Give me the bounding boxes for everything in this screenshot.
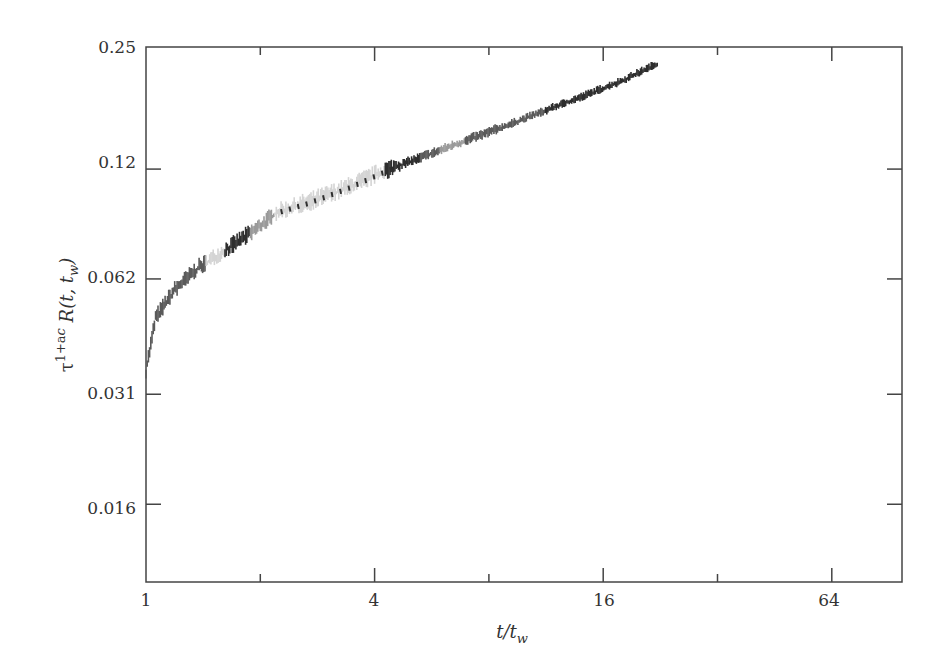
y-tick-labels: 0.25 0.12 0.062 0.031 0.016	[87, 37, 136, 518]
data-trace	[332, 192, 333, 197]
x-tick-labels: 1 4 16 64	[141, 590, 840, 610]
y-tick-label: 0.062	[87, 267, 136, 287]
data-trace	[315, 198, 316, 203]
chart: 0.25 0.12 0.062 0.031 0.016 1 4 16 64 t/…	[0, 0, 951, 672]
data-trace	[365, 178, 366, 183]
x-tick-label: 64	[818, 590, 840, 610]
data-trace	[289, 207, 290, 212]
plot-frame	[146, 47, 902, 582]
data-trace	[357, 182, 358, 187]
data-series	[146, 62, 657, 379]
data-trace	[398, 164, 399, 169]
y-tick-label: 0.031	[87, 383, 136, 403]
data-trace	[373, 174, 374, 179]
data-trace	[390, 167, 391, 172]
x-tick-label: 16	[593, 590, 615, 610]
data-trace	[306, 201, 307, 206]
data-trace	[298, 204, 299, 209]
data-trace	[415, 158, 416, 163]
y-axis-label: τ1+ac R(t, tw)	[53, 258, 81, 373]
data-trace	[323, 195, 324, 200]
data-trace	[340, 189, 341, 194]
y-tick-label: 0.016	[87, 498, 136, 518]
x-tick-label: 1	[141, 590, 152, 610]
axis-ticks	[146, 47, 902, 582]
data-trace	[281, 209, 282, 214]
y-tick-label: 0.12	[98, 152, 136, 172]
data-trace	[382, 171, 383, 176]
x-tick-label: 4	[369, 590, 380, 610]
x-axis-label: t/tw	[496, 621, 528, 646]
y-tick-label: 0.25	[98, 37, 136, 57]
data-trace	[407, 161, 408, 166]
data-trace	[349, 186, 350, 191]
